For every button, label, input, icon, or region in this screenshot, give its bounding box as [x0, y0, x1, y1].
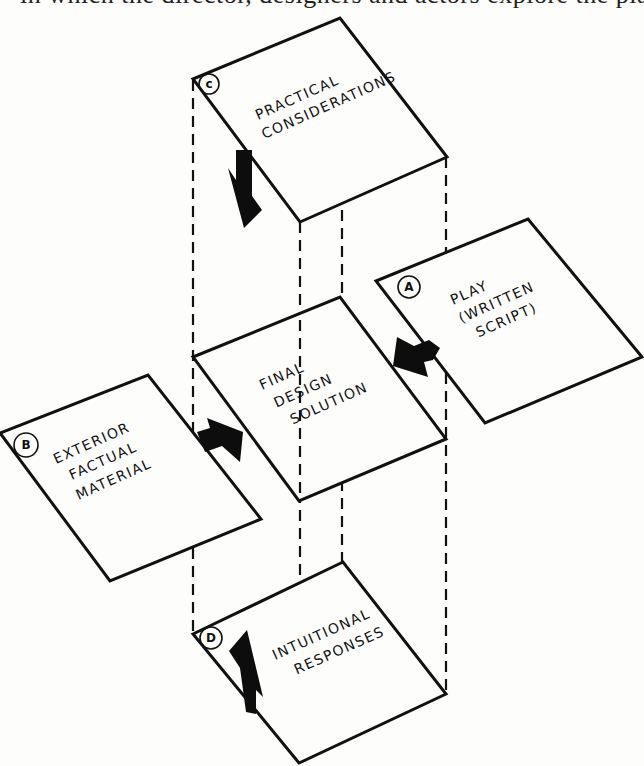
panel-c-practical-considerations: c PRACTICAL CONSIDERATIONS: [193, 18, 447, 222]
badge-b-letter: B: [21, 438, 30, 452]
panel-a-play-written-script: A PLAY (WRITTEN SCRIPT): [376, 219, 642, 423]
badge-a-letter: A: [404, 280, 414, 294]
badge-c-letter: c: [205, 77, 212, 91]
badge-d-letter: D: [206, 631, 216, 645]
panel-b-exterior-factual-material: B EXTERIOR FACTUAL MATERIAL: [0, 375, 261, 581]
design-process-diagram: D INTUITIONAL RESPONSES c PRACTICAL CONS…: [0, 0, 644, 766]
panel-final-design-solution: FINAL DESIGN SOLUTION: [193, 297, 446, 501]
panel-d-intuitional-responses: D INTUITIONAL RESPONSES: [193, 562, 446, 763]
arrow-left-icon: [393, 337, 440, 377]
